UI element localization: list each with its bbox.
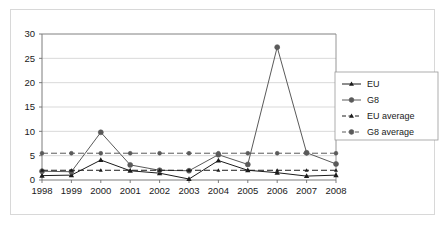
x-axis-tick-labels: 1998199920002001200220032004200520062007…: [31, 180, 346, 196]
legend-marker: [349, 98, 354, 103]
legend-label: EU: [367, 79, 380, 89]
y-axis-tick-labels: 051015202530: [24, 28, 42, 185]
y-tick-label: 25: [24, 53, 35, 64]
data-point-marker: [128, 151, 132, 155]
data-point-marker: [187, 151, 191, 155]
y-tick-label: 10: [24, 126, 35, 137]
chart-legend: EUG8EU averageG8 average: [335, 72, 438, 140]
data-point-marker: [98, 130, 103, 135]
x-tick-label: 2007: [296, 185, 317, 196]
data-point-marker: [334, 161, 339, 166]
x-tick-label: 2008: [325, 185, 346, 196]
data-point-marker: [99, 151, 103, 155]
x-tick-label: 2005: [237, 185, 258, 196]
line-chart: 051015202530 199819992000200120022003200…: [0, 0, 447, 226]
data-point-marker: [305, 151, 309, 155]
series-plot-group: [39, 45, 338, 181]
x-tick-label: 2000: [90, 185, 111, 196]
legend-label: EU average: [367, 111, 415, 121]
data-point-marker: [334, 151, 338, 155]
x-tick-label: 1998: [31, 185, 52, 196]
chart-container: 051015202530 199819992000200120022003200…: [0, 0, 447, 226]
legend-label: G8 average: [367, 127, 414, 137]
data-point-marker: [98, 157, 103, 162]
y-tick-label: 30: [24, 28, 35, 39]
y-tick-label: 0: [30, 174, 35, 185]
data-point-marker: [158, 151, 162, 155]
data-point-marker: [40, 151, 44, 155]
legend-label: G8: [367, 95, 379, 105]
data-point-marker: [217, 151, 221, 155]
y-tick-label: 20: [24, 77, 35, 88]
y-tick-label: 5: [30, 150, 35, 161]
y-tick-label: 15: [24, 101, 35, 112]
data-point-marker: [245, 162, 250, 167]
data-point-marker: [128, 162, 133, 167]
data-point-marker: [275, 45, 280, 50]
gridlines: [42, 34, 336, 156]
x-tick-label: 2004: [208, 185, 229, 196]
legend-marker: [349, 130, 354, 135]
x-tick-label: 2002: [149, 185, 170, 196]
data-point-marker: [275, 151, 279, 155]
x-tick-label: 2003: [178, 185, 199, 196]
x-tick-label: 1999: [61, 185, 82, 196]
data-point-marker: [70, 151, 74, 155]
data-point-marker: [246, 151, 250, 155]
x-tick-label: 2001: [120, 185, 141, 196]
data-point-marker: [216, 158, 221, 163]
x-tick-label: 2006: [267, 185, 288, 196]
